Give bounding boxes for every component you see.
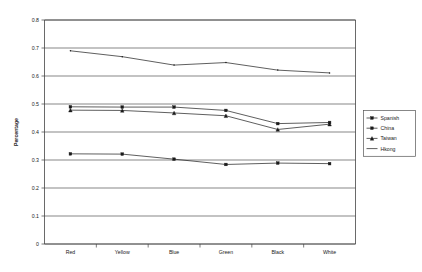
x-tick-label-black: Black xyxy=(271,249,284,255)
line-chart: 0.80.70.60.50.40.30.20.10 RedYellowBlueG… xyxy=(0,0,422,272)
legend-swatch-marker-spanish xyxy=(371,117,374,120)
series-point-spanish-5 xyxy=(328,162,331,165)
y-tick-label-0.6: 0.6 xyxy=(32,73,39,79)
y-tick-label-0.5: 0.5 xyxy=(32,101,39,107)
legend-label-spanish: Spanish xyxy=(381,115,400,121)
series-point-china-3 xyxy=(225,109,228,112)
y-tick-label-0.1: 0.1 xyxy=(32,213,39,219)
series-point-spanish-2 xyxy=(173,158,176,161)
legend-label-hkong: Hkong xyxy=(381,146,396,152)
x-tick-label-red: Red xyxy=(66,249,76,255)
x-tick-label-green: Green xyxy=(219,249,234,255)
series-point-china-1 xyxy=(121,106,124,109)
legend-swatch-marker-china xyxy=(371,127,374,130)
y-tick-label-0.7: 0.7 xyxy=(32,45,39,51)
series-point-hkong-0 xyxy=(70,50,72,52)
series-point-china-4 xyxy=(276,122,279,125)
series-point-spanish-3 xyxy=(225,163,228,166)
series-point-hkong-2 xyxy=(173,64,175,66)
y-tick-label-0.3: 0.3 xyxy=(32,157,39,163)
x-tick-label-yellow: Yellow xyxy=(115,249,130,255)
y-tick-label-0.8: 0.8 xyxy=(32,17,39,23)
series-point-hkong-4 xyxy=(277,69,279,71)
y-axis-title-group: Percentage xyxy=(13,118,19,146)
y-tick-label-0: 0 xyxy=(36,241,39,247)
legend-label-taiwan: Taiwan xyxy=(381,135,397,141)
series-point-hkong-5 xyxy=(329,72,331,74)
series-point-hkong-1 xyxy=(122,56,124,58)
y-tick-label-0.2: 0.2 xyxy=(32,185,39,191)
chart-canvas: 0.80.70.60.50.40.30.20.10 RedYellowBlueG… xyxy=(0,0,422,272)
legend: SpanishChinaTaiwanHkong xyxy=(364,111,416,157)
series-point-china-2 xyxy=(173,106,176,109)
series-point-spanish-0 xyxy=(69,152,72,155)
series-point-spanish-4 xyxy=(276,162,279,165)
chart-background xyxy=(0,0,422,272)
legend-label-china: China xyxy=(381,125,395,131)
x-tick-label-blue: Blue xyxy=(169,249,179,255)
series-point-spanish-1 xyxy=(121,153,124,156)
y-axis-title: Percentage xyxy=(13,118,19,146)
y-tick-label-0.4: 0.4 xyxy=(32,129,39,135)
series-point-hkong-3 xyxy=(225,62,227,64)
series-point-china-0 xyxy=(69,105,72,108)
x-tick-label-white: White xyxy=(323,249,336,255)
